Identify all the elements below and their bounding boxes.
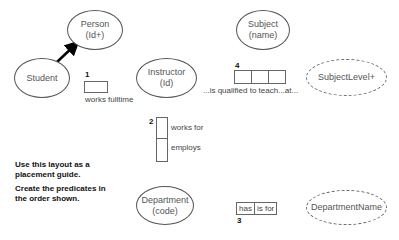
entity-instructor[interactable]: Instructor (Id) bbox=[136, 58, 197, 98]
role-cell[interactable] bbox=[84, 81, 108, 93]
predicate-number: 1 bbox=[85, 70, 89, 79]
predicate-3-box[interactable]: has is for bbox=[236, 202, 277, 215]
predicate-reading: works for bbox=[171, 123, 203, 132]
entity-name: Department bbox=[141, 195, 188, 206]
orm-diagram-canvas: Person (Id+) Student Instructor (Id) Sub… bbox=[0, 0, 399, 240]
predicate-reading: ...is qualified to teach...at... bbox=[203, 86, 298, 95]
valuetype-departmentname[interactable]: DepartmentName bbox=[306, 190, 387, 225]
role-cell[interactable] bbox=[269, 70, 286, 84]
entity-name: Instructor bbox=[148, 67, 186, 78]
entity-subject[interactable]: Subject (name) bbox=[236, 10, 290, 50]
role-cell-is-for[interactable]: is for bbox=[255, 202, 277, 215]
entity-name: Person bbox=[81, 19, 110, 30]
predicate-number: 2 bbox=[149, 117, 153, 126]
role-cell[interactable] bbox=[252, 70, 269, 84]
entity-department[interactable]: Department (code) bbox=[136, 186, 194, 225]
predicate-reading: works fulltime bbox=[85, 95, 133, 104]
predicate-number: 3 bbox=[237, 216, 241, 225]
instruction-line-1: Use this layout as a placement guide. bbox=[15, 160, 107, 180]
entity-refmode: (Id) bbox=[160, 78, 174, 89]
predicate-2-box[interactable] bbox=[156, 117, 168, 162]
role-cell[interactable] bbox=[234, 70, 252, 84]
predicate-1-box[interactable] bbox=[84, 81, 108, 93]
valuetype-name: DepartmentName bbox=[311, 202, 382, 213]
entity-person[interactable]: Person (Id+) bbox=[67, 10, 123, 50]
role-cell[interactable] bbox=[156, 117, 168, 139]
role-cell-has[interactable]: has bbox=[236, 202, 255, 215]
entity-student[interactable]: Student bbox=[14, 58, 70, 98]
entity-refmode: (name) bbox=[249, 30, 278, 41]
predicate-number: 4 bbox=[235, 61, 239, 70]
instruction-line-2: Create the predicates in the order shown… bbox=[15, 184, 115, 204]
entity-refmode: (Id+) bbox=[86, 30, 105, 41]
valuetype-subjectlevel[interactable]: SubjectLevel+ bbox=[306, 59, 387, 96]
predicate-4-box[interactable] bbox=[234, 70, 286, 84]
entity-refmode: (code) bbox=[152, 206, 178, 217]
entity-name: Student bbox=[26, 73, 57, 84]
role-cell[interactable] bbox=[156, 139, 168, 162]
entity-name: Subject bbox=[248, 19, 278, 30]
instructions: Use this layout as a placement guide. Cr… bbox=[15, 160, 115, 208]
predicate-reading-inverse: employs bbox=[171, 143, 201, 152]
valuetype-name: SubjectLevel+ bbox=[318, 72, 375, 83]
